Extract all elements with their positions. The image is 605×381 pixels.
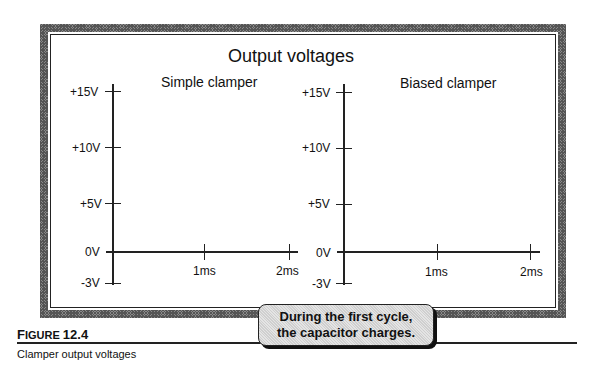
y-tick-label: +15V <box>70 85 98 99</box>
y-tick-label: +5V <box>308 197 330 211</box>
x-axis <box>337 251 540 253</box>
y-tick-label: +15V <box>302 86 330 100</box>
y-tick-label: +10V <box>72 141 100 155</box>
x-tick-label: 2ms <box>520 265 543 279</box>
subtitle-biased-clamper: Biased clamper <box>400 75 497 91</box>
y-axis <box>112 84 114 285</box>
callout-line-2: the capacitor charges. <box>259 325 433 341</box>
y-tick-label: -3V <box>312 277 331 291</box>
callout-line-1: During the first cycle, <box>259 309 433 325</box>
subtitle-simple-clamper: Simple clamper <box>161 74 257 90</box>
x-axis <box>106 251 298 253</box>
figure-label: FIGURE 12.4 <box>17 327 88 342</box>
figure-frame <box>40 24 566 318</box>
x-tick-label: 2ms <box>276 264 299 278</box>
y-tick-label: 0V <box>316 246 331 260</box>
chart-title: Output voltages <box>228 46 354 67</box>
x-tick-label: 1ms <box>193 264 216 278</box>
callout-box: During the first cycle, the capacitor ch… <box>258 304 434 346</box>
figure-caption: Clamper output voltages <box>17 347 137 361</box>
y-tick-label: -3V <box>81 276 100 290</box>
y-tick-label: +5V <box>80 197 102 211</box>
y-tick-label: 0V <box>85 245 100 259</box>
y-tick-label: +10V <box>302 141 330 155</box>
y-axis <box>343 84 345 285</box>
x-tick-label: 1ms <box>425 265 448 279</box>
